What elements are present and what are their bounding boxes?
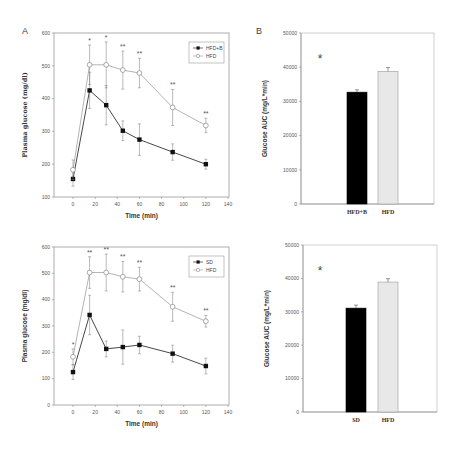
data-point — [120, 68, 125, 73]
bar-hfd: HFD — [378, 68, 398, 215]
y-tick-label: 500 — [42, 63, 51, 69]
significance-star: * — [72, 341, 75, 348]
y-axis-label: Plasma glucose (mg/dl) — [21, 290, 29, 363]
data-point — [71, 354, 76, 359]
significance-star: ** — [137, 259, 143, 266]
x-tick-label: 100 — [180, 409, 189, 415]
data-point — [203, 319, 208, 324]
series-hfd-b — [71, 72, 208, 186]
y-tick-label: 10000 — [285, 375, 299, 381]
data-point — [87, 270, 92, 275]
y-axis: 0100200300400500600 — [42, 244, 54, 408]
significance-star: ** — [170, 284, 176, 291]
y-tick-label: 400 — [42, 95, 51, 101]
data-point — [204, 364, 208, 368]
data-point — [204, 162, 208, 166]
series-hfd — [71, 42, 209, 180]
y-tick-label: 300 — [42, 128, 51, 134]
y-tick-label: 10000 — [283, 167, 297, 173]
legend-label: HFD — [206, 53, 217, 59]
category-label: HFD+B — [347, 209, 367, 215]
series-sd — [71, 295, 208, 379]
x-axis: 020406080100120140 — [72, 197, 233, 207]
chart-top_line: 100200300400500600020406080100120140Time… — [21, 26, 232, 220]
y-tick-label: 600 — [42, 244, 51, 250]
category-label: HFD — [382, 209, 395, 215]
x-tick-label: 20 — [92, 409, 98, 415]
data-point — [170, 105, 175, 110]
x-tick-label: 60 — [137, 201, 143, 207]
y-tick-label: 100 — [42, 194, 51, 200]
significance-star: ** — [203, 307, 209, 314]
x-tick-label: 40 — [115, 409, 121, 415]
data-point — [203, 123, 208, 128]
significance-star: ** — [170, 81, 176, 88]
significance-star: ** — [137, 50, 143, 57]
data-point — [170, 304, 175, 309]
x-axis: 020406080100120140 — [72, 405, 233, 415]
legend-label: SD — [206, 259, 213, 265]
significance-star: * — [318, 264, 323, 278]
data-point — [121, 345, 125, 349]
bar-sd: SD — [346, 305, 366, 423]
legend-label: HFD+B — [206, 45, 223, 51]
plot-frame — [303, 245, 437, 412]
y-tick-label: 20000 — [283, 132, 297, 138]
y-axis: 100200300400500600 — [42, 30, 54, 200]
y-tick-label: 20000 — [285, 342, 299, 348]
significance-markers: ************* — [72, 246, 209, 348]
bar-hfd-b: HFD+B — [347, 90, 367, 215]
data-point — [120, 274, 125, 279]
data-point — [170, 150, 174, 154]
x-tick-label: 120 — [202, 201, 211, 207]
data-point — [87, 88, 91, 92]
y-tick-label: 0 — [294, 201, 297, 207]
data-point — [104, 62, 109, 67]
data-point — [170, 351, 174, 355]
y-tick-label: 600 — [42, 30, 51, 36]
y-tick-label: 30000 — [283, 98, 297, 104]
data-point — [104, 347, 108, 351]
chart-bottom_bar: 01000020000300004000050000Glucose AUC (m… — [263, 242, 437, 423]
legend: HFD+BHFD — [189, 42, 224, 63]
x-tick-label: 80 — [159, 409, 165, 415]
data-point — [104, 103, 108, 107]
significance-star: * — [88, 37, 91, 44]
data-point — [137, 277, 142, 282]
x-tick-label: 100 — [180, 201, 189, 207]
y-axis: 01000020000300004000050000 — [285, 242, 303, 415]
y-tick-label: 200 — [42, 161, 51, 167]
x-tick-label: 40 — [115, 201, 121, 207]
data-point — [137, 71, 142, 76]
chart-bottom_line: 0100200300400500600020406080100120140Tim… — [21, 244, 232, 428]
y-tick-label: 40000 — [283, 64, 297, 70]
data-point — [104, 270, 109, 275]
data-point — [71, 370, 75, 374]
y-tick-label: 300 — [42, 323, 51, 329]
y-tick-label: 50000 — [285, 242, 299, 248]
significance-star: ** — [120, 253, 126, 260]
significance-star: * — [318, 52, 323, 66]
panel-label: B — [256, 26, 262, 36]
y-tick-label: 0 — [47, 402, 50, 408]
data-point — [137, 343, 141, 347]
x-tick-label: 60 — [137, 409, 143, 415]
bar-hfd: HFD — [378, 279, 398, 423]
x-tick-label: 20 — [92, 201, 98, 207]
significance-star: ** — [87, 249, 93, 256]
x-tick-label: 0 — [72, 201, 75, 207]
significance-star: ** — [103, 246, 109, 253]
y-tick-label: 30000 — [285, 309, 299, 315]
y-tick-label: 400 — [42, 296, 51, 302]
bar — [347, 92, 367, 204]
bar — [378, 71, 398, 204]
y-tick-label: 40000 — [285, 275, 299, 281]
data-point — [121, 129, 125, 133]
bar — [378, 282, 398, 412]
x-tick-label: 140 — [224, 409, 233, 415]
x-axis-label: Time (min) — [125, 420, 158, 428]
y-axis-label: Glucose AUC (mg/L*min) — [261, 80, 269, 157]
bar — [346, 308, 366, 412]
x-tick-label: 140 — [224, 201, 233, 207]
panel-label: A — [22, 26, 28, 36]
